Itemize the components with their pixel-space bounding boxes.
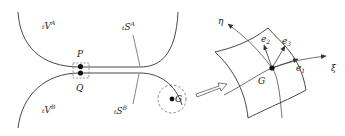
patch-point-g-marker: [269, 65, 274, 70]
eta-label: η: [218, 16, 224, 26]
e2-label: e2: [261, 34, 270, 45]
point-p-label: P: [76, 49, 84, 59]
point-q-marker: [78, 70, 83, 75]
eta-axis: [228, 24, 282, 118]
surface-b-leader: [133, 74, 139, 104]
patch-point-g-label: G: [258, 76, 265, 86]
point-p-marker: [78, 64, 83, 69]
e3-vector: [272, 46, 285, 68]
magnify-arrow: [196, 83, 227, 97]
point-q-label: Q: [76, 83, 84, 93]
body-b-label: tVB: [42, 103, 56, 115]
e3-label: e3: [282, 36, 291, 47]
point-g-label: G: [175, 94, 182, 104]
e2-vector: [264, 45, 272, 68]
surface-a-label: tSA: [122, 20, 136, 32]
point-g-marker: [170, 97, 175, 102]
xi-axis: [224, 56, 326, 95]
contact-diagram: tVA tVB tSA tSB P Q G η ξ e1 e2 e3 G: [0, 0, 345, 136]
body-a-boundary: [18, 12, 178, 67]
surface-b-label: tSB: [114, 104, 128, 116]
e1-label: e1: [296, 63, 305, 74]
body-b-boundary: [18, 73, 182, 128]
xi-label: ξ: [331, 63, 337, 73]
body-a-label: tVA: [42, 19, 56, 31]
e1-vector: [272, 59, 298, 68]
surface-a-leader: [133, 35, 140, 66]
